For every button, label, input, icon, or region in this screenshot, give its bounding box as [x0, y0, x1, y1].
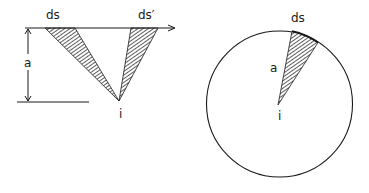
- label-ds: ds: [291, 11, 305, 25]
- wedge-arc-ds: [278, 31, 318, 105]
- label-ds: ds: [46, 8, 60, 22]
- label-ds-prime: ds′: [138, 8, 155, 22]
- circle: [207, 31, 353, 177]
- right-panel: ds a i: [207, 11, 353, 177]
- wedge-ds: [45, 28, 119, 101]
- label-i: i: [278, 109, 281, 123]
- diagram-canvas: ds ds′ a i ds a i: [0, 0, 369, 193]
- label-a: a: [24, 56, 31, 70]
- label-i: i: [119, 107, 122, 121]
- left-panel: ds ds′ a i: [17, 8, 175, 121]
- label-a: a: [270, 61, 277, 75]
- wedge-ds-prime: [119, 28, 158, 101]
